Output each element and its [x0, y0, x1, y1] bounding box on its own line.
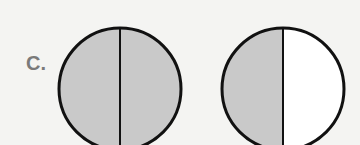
left-circle-left-half [59, 28, 120, 145]
right-circle [222, 28, 344, 145]
right-circle-right-half [283, 28, 344, 145]
right-circle-left-half [222, 28, 283, 145]
left-circle-right-half [120, 28, 181, 145]
left-circle [59, 28, 181, 145]
fraction-circles-diagram [0, 0, 360, 145]
